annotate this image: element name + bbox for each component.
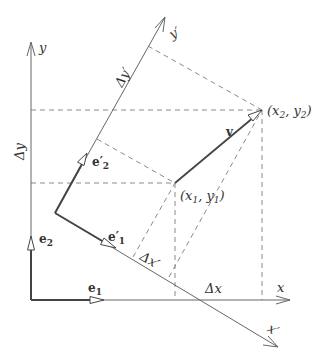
primed-axes bbox=[55, 17, 278, 347]
basis-vectors bbox=[31, 240, 92, 300]
e2-prime-arrowhead-icon bbox=[78, 153, 88, 166]
original-axes bbox=[27, 42, 290, 304]
point2-label: (x2, y2) bbox=[267, 103, 312, 120]
e1-prime-label: e′1 bbox=[108, 230, 125, 246]
delta-y-prime-label: Δy′ bbox=[111, 65, 134, 90]
e1-label: e1 bbox=[88, 281, 102, 297]
delta-y-label: Δy bbox=[12, 143, 27, 161]
primed-basis-vectors bbox=[55, 164, 104, 242]
y-axis-label: y bbox=[38, 40, 47, 55]
x-axis-label: x bbox=[277, 280, 285, 295]
coordinate-transformation-diagram: y x x′ y′ Δy Δx Δy′ Δx′ e2 e1 e′2 e′1 v … bbox=[0, 0, 323, 360]
e2-prime-vector bbox=[55, 164, 82, 213]
y-prime-axis-label: y′ bbox=[165, 24, 182, 43]
e2-prime-label: e′2 bbox=[92, 155, 109, 171]
e2-arrowhead-icon bbox=[28, 236, 35, 250]
x-prime-axis-label: x′ bbox=[265, 320, 282, 338]
dashed-x1prime-projection bbox=[133, 183, 175, 257]
delta-x-prime-label: Δx′ bbox=[137, 248, 162, 271]
vector-v bbox=[175, 117, 254, 183]
e1-prime-vector bbox=[55, 213, 104, 242]
point1-label: (x1, y1) bbox=[180, 188, 225, 205]
e2-label: e2 bbox=[39, 232, 53, 248]
vector-v-label: v bbox=[225, 125, 234, 139]
delta-x-label: Δx bbox=[204, 281, 222, 296]
dashed-y2prime-projection bbox=[148, 46, 262, 110]
e1-arrowhead-icon bbox=[90, 297, 104, 304]
y-prime-axis-arrowhead-icon bbox=[155, 17, 165, 32]
